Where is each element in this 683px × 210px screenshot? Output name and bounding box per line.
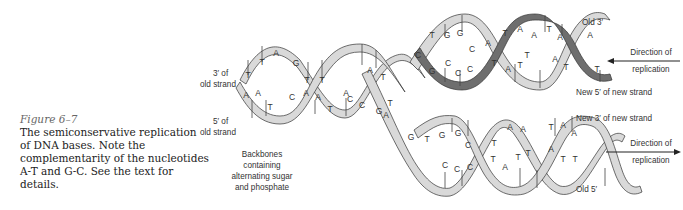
base-letter: A bbox=[383, 110, 389, 120]
label-old-5: Old 5′ bbox=[576, 185, 598, 194]
base-letter: C bbox=[442, 160, 448, 170]
base-letter: C bbox=[455, 68, 461, 78]
direction-top-1: Direction of bbox=[630, 48, 672, 57]
arrow-left-icon bbox=[607, 58, 680, 64]
base-letter: G bbox=[376, 106, 383, 116]
base-letter: T bbox=[491, 138, 496, 148]
base-letter: A bbox=[505, 64, 511, 74]
base-letter: G bbox=[439, 130, 446, 140]
base-letter: G bbox=[293, 58, 300, 68]
base-letter: T bbox=[245, 70, 250, 80]
base-letter: C bbox=[415, 50, 421, 60]
label-old-3: Old 3′ bbox=[582, 18, 604, 27]
base-letter: A bbox=[552, 54, 558, 64]
backbone-label-3: alternating sugar bbox=[232, 172, 293, 181]
base-letter: G bbox=[429, 66, 436, 76]
base-letter: T bbox=[525, 148, 530, 158]
base-letter: T bbox=[572, 154, 577, 164]
base-letter: A bbox=[507, 122, 513, 132]
label-new-5: New 5′ of new strand bbox=[576, 88, 653, 97]
label-5-old-strand-1: 5′ of bbox=[213, 117, 229, 126]
base-letter: T bbox=[267, 102, 272, 112]
base-letter: A bbox=[273, 48, 279, 58]
base-letter: T bbox=[380, 72, 385, 82]
base-letter: C bbox=[467, 162, 473, 172]
base-letter: T bbox=[560, 154, 565, 164]
base-letter: A bbox=[548, 144, 554, 154]
label-new-3: New 3′ of new strand bbox=[576, 114, 653, 123]
backbone-label-2: containing bbox=[243, 161, 281, 170]
label-3-old-strand-1: 3′ of bbox=[213, 69, 229, 78]
base-letter: T bbox=[259, 57, 264, 67]
base-letter: C bbox=[359, 100, 365, 110]
base-letter: A bbox=[485, 38, 491, 48]
direction-bottom-1: Direction of bbox=[630, 139, 672, 148]
base-letter: A bbox=[303, 88, 309, 98]
base-letter: G bbox=[408, 132, 415, 142]
backbone-label-4: and phosphate bbox=[235, 183, 290, 192]
base-letter: T bbox=[546, 24, 551, 34]
dna-replication-diagram: TTAGTTTCATAATCAAACGTACTGGCATAATAACCCGTAT… bbox=[0, 0, 683, 210]
base-letter: T bbox=[304, 75, 309, 85]
base-letter: A bbox=[315, 92, 321, 102]
base-letter: T bbox=[563, 62, 568, 72]
base-letter: T bbox=[387, 98, 392, 108]
base-letter: G bbox=[457, 28, 464, 38]
base-letter: T bbox=[491, 58, 496, 68]
direction-top-2: replication bbox=[632, 65, 670, 74]
base-letter: A bbox=[367, 65, 373, 75]
base-letter: A bbox=[243, 90, 249, 100]
base-letter: C bbox=[469, 44, 475, 54]
base-letter: A bbox=[531, 30, 537, 40]
base-letter: T bbox=[548, 122, 553, 132]
base-letter: T bbox=[424, 134, 429, 144]
base-letter: A bbox=[255, 88, 261, 98]
base-letter: T bbox=[502, 28, 507, 38]
arrow-right-icon bbox=[606, 149, 681, 155]
base-letter: C bbox=[289, 92, 295, 102]
base-letter: T bbox=[490, 154, 495, 164]
backbone-label-1: Backbones bbox=[242, 150, 283, 159]
base-letter: T bbox=[319, 75, 324, 85]
base-letter: C bbox=[465, 140, 471, 150]
base-letter: A bbox=[560, 120, 566, 130]
base-letter: A bbox=[343, 88, 349, 98]
base-letter: A bbox=[587, 30, 593, 40]
base-letter: C bbox=[445, 58, 451, 68]
base-letter: A bbox=[557, 32, 563, 42]
base-letter: C bbox=[467, 64, 473, 74]
base-letter: T bbox=[429, 30, 434, 40]
base-letter: T bbox=[517, 60, 522, 70]
direction-bottom-2: replication bbox=[632, 156, 670, 165]
base-letter: T bbox=[327, 104, 332, 114]
label-5-old-strand-2: old strand bbox=[200, 128, 236, 137]
base-letter: T bbox=[594, 64, 599, 74]
label-3-old-strand-2: old strand bbox=[200, 80, 236, 89]
base-letter: A bbox=[520, 124, 526, 134]
base-letter: A bbox=[502, 162, 508, 172]
base-letter: T bbox=[524, 50, 529, 60]
base-letter: C bbox=[454, 164, 460, 174]
base-letter: T bbox=[515, 152, 520, 162]
base-letter: G bbox=[444, 30, 451, 40]
base-letter: A bbox=[571, 128, 577, 138]
base-letter: G bbox=[455, 128, 462, 138]
base-letter: A bbox=[517, 24, 523, 34]
